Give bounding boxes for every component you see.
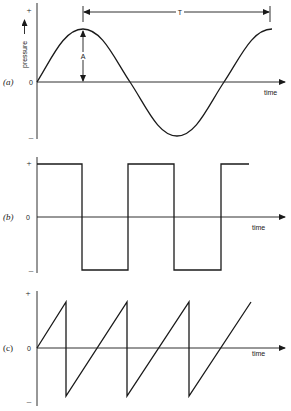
waveform-figure: + 0 – (a) time pressure T A + 0 – (b) ti…	[0, 0, 291, 411]
tick-zero: 0	[27, 345, 31, 352]
panel-label: (b)	[3, 212, 14, 222]
tick-zero: 0	[29, 79, 33, 86]
tick-minus: –	[28, 265, 34, 275]
panel-a-sine: + 0 – (a) time pressure T A	[3, 3, 285, 142]
tick-minus: –	[28, 132, 34, 142]
amplitude-label: A	[81, 53, 86, 60]
tick-plus: +	[25, 288, 30, 298]
panel-c-sawtooth: + 0 – (c) time	[3, 288, 285, 406]
tick-minus: –	[26, 396, 32, 406]
panel-b-square: + 0 – (b) time	[3, 157, 285, 275]
period-label: T	[178, 9, 183, 16]
tick-plus: +	[26, 5, 31, 15]
x-axis-label: time	[252, 350, 265, 357]
panel-label: (c)	[3, 343, 13, 353]
y-axis-label-group: pressure	[21, 20, 29, 68]
y-axis-label: pressure	[21, 41, 29, 68]
tick-plus: +	[26, 158, 31, 168]
sawtooth-wave	[37, 302, 251, 396]
tick-zero: 0	[26, 214, 30, 221]
panel-label: (a)	[3, 77, 14, 87]
x-axis-label: time	[264, 89, 277, 96]
x-axis-label: time	[252, 224, 265, 231]
sine-curve	[37, 29, 272, 136]
